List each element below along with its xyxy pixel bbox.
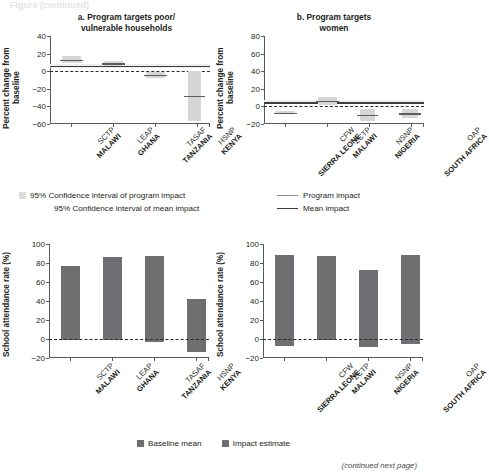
legend-row-program-impact: Program impact bbox=[277, 191, 360, 200]
axis-tick bbox=[47, 106, 50, 107]
panel-d-x-axis bbox=[263, 357, 423, 358]
y-tick-label: 100 bbox=[32, 240, 45, 249]
y-tick-label: 40 bbox=[250, 297, 259, 306]
y-tick-label: 40 bbox=[251, 67, 260, 76]
panel-a-zero-line bbox=[50, 71, 210, 72]
y-tick-label: 40 bbox=[36, 297, 45, 306]
category-label: OAP SOUTH AFRICA bbox=[436, 362, 489, 415]
program-impact-line-icon bbox=[277, 195, 298, 196]
program-impact-line bbox=[60, 60, 83, 61]
panel-a-title: a. Program targets poor/ vulnerable hous… bbox=[44, 12, 209, 33]
bar-baseline bbox=[187, 299, 206, 352]
panel-c-plot-area bbox=[49, 244, 209, 358]
legend-label-impact-estimate: Impact estimate bbox=[233, 439, 290, 448]
category-label: TASAF TANZANIA bbox=[175, 126, 214, 165]
bar-legend: Baseline mean Impact estimate bbox=[0, 439, 427, 448]
panel-a-mean-impact-line bbox=[50, 66, 210, 68]
legend-label-mean-impact: Mean impact bbox=[303, 204, 349, 213]
axis-tick bbox=[284, 358, 285, 361]
axis-tick bbox=[47, 124, 50, 125]
axis-tick bbox=[154, 358, 155, 361]
panel-b-plot: 80 60 40 20 0 −20 bbox=[236, 36, 424, 124]
panel-b-plot-area bbox=[264, 36, 424, 124]
axis-tick bbox=[46, 263, 49, 264]
y-tick-label: 80 bbox=[250, 259, 259, 268]
mean-ci-swatch-icon bbox=[43, 205, 50, 212]
panel-c-y-ticks: 100 80 60 40 20 0 −20 bbox=[20, 244, 45, 358]
panel-d-y-axis-label: School attendance rate (%) bbox=[216, 244, 236, 364]
legend-item-baseline-mean: Baseline mean bbox=[137, 439, 202, 448]
axis-tick bbox=[260, 320, 263, 321]
panel-d-zero-line bbox=[263, 339, 423, 340]
category-label: LEAP GHANA bbox=[129, 362, 161, 394]
program-impact-line bbox=[357, 115, 378, 116]
bar-baseline bbox=[359, 270, 378, 348]
y-tick-label: −40 bbox=[32, 102, 46, 111]
category-label: OAP SOUTH AFRICA bbox=[437, 126, 489, 179]
axis-tick bbox=[46, 301, 49, 302]
program-impact-line bbox=[144, 75, 167, 76]
category-label: NSNP NIGERIA bbox=[386, 362, 421, 397]
axis-tick bbox=[260, 358, 263, 359]
axis-tick bbox=[46, 244, 49, 245]
y-tick-label: 80 bbox=[251, 32, 260, 41]
panel-c-school-attendance-poor: School attendance rate (%) 100 80 60 40 … bbox=[0, 236, 213, 426]
y-tick-label: 60 bbox=[251, 49, 260, 58]
axis-tick bbox=[196, 358, 197, 361]
y-tick-label: 60 bbox=[36, 277, 45, 286]
axis-tick bbox=[368, 358, 369, 361]
axis-tick bbox=[422, 358, 423, 361]
axis-tick bbox=[46, 320, 49, 321]
axis-tick bbox=[208, 358, 209, 361]
axis-tick bbox=[47, 36, 50, 37]
axis-tick bbox=[260, 301, 263, 302]
bar-baseline bbox=[145, 256, 164, 342]
bar-baseline bbox=[61, 266, 80, 340]
cut-off-title: Figure (continued) bbox=[10, 0, 420, 10]
panel-a-y-axis-label: Percent change from baseline bbox=[2, 34, 22, 142]
category-label: TASAF TANZANIA bbox=[174, 362, 213, 401]
y-tick-label: 0 bbox=[256, 102, 260, 111]
panel-a-title-line1: a. Program targets poor/ bbox=[78, 12, 175, 22]
panel-d-y-axis bbox=[263, 244, 264, 358]
panel-b-title: b. Program targets women bbox=[254, 12, 414, 33]
axis-tick bbox=[260, 282, 263, 283]
panel-a-plot-area bbox=[50, 36, 210, 124]
category-label: LEAP GHANA bbox=[130, 126, 162, 158]
panel-a-category-labels: SCTP MALAWI LEAP GHANA TASAF TANZANIA HS… bbox=[22, 126, 212, 176]
program-impact-line bbox=[274, 113, 297, 114]
axis-tick bbox=[410, 358, 411, 361]
continued-footer: (continued next page) bbox=[342, 461, 417, 470]
panel-b-x-axis bbox=[264, 123, 424, 124]
axis-tick bbox=[261, 124, 264, 125]
axis-tick bbox=[112, 358, 113, 361]
panel-a-title-line2: vulnerable households bbox=[81, 23, 172, 33]
y-tick-label: 0 bbox=[42, 67, 46, 76]
program-impact-line bbox=[316, 101, 339, 102]
panel-a-program-targets-poor: a. Program targets poor/ vulnerable hous… bbox=[0, 12, 213, 177]
panel-a-y-axis bbox=[50, 36, 51, 124]
baseline-swatch-icon bbox=[137, 440, 144, 447]
panel-b-y-axis-label: Percent change from baseline bbox=[216, 34, 236, 142]
y-tick-label: 80 bbox=[36, 259, 45, 268]
program-impact-line bbox=[184, 96, 205, 97]
panel-a-y-ticks: 40 20 0 −20 −40 −60 bbox=[22, 36, 46, 124]
axis-tick bbox=[326, 358, 327, 361]
confidence-interval-legend: 95% Confidence interval of program impac… bbox=[0, 191, 427, 217]
axis-tick bbox=[261, 54, 264, 55]
category-label: SCTP MALAWI bbox=[88, 362, 122, 396]
panel-c-y-axis bbox=[49, 244, 50, 358]
bar-baseline bbox=[401, 255, 420, 343]
panel-d-plot: 100 80 60 40 20 0 −20 bbox=[234, 244, 426, 358]
legend-item-impact-estimate: Impact estimate bbox=[222, 439, 290, 448]
axis-tick bbox=[47, 54, 50, 55]
panel-b-title-line1: b. Program targets bbox=[297, 12, 371, 22]
category-label: NSNP NIGERIA bbox=[387, 126, 422, 161]
panel-b-mean-impact-line bbox=[264, 102, 424, 104]
y-tick-label: 60 bbox=[250, 277, 259, 286]
y-tick-label: 0 bbox=[41, 334, 45, 343]
y-tick-label: 20 bbox=[250, 316, 259, 325]
panel-a-plot: 40 20 0 −20 −40 −60 bbox=[22, 36, 210, 124]
panel-b-category-labels: CFW SIERRA LEONE ZCTP MALAWI NSNP NIGERI… bbox=[236, 126, 431, 181]
panel-b-y-ticks: 80 60 40 20 0 −20 bbox=[236, 36, 260, 124]
